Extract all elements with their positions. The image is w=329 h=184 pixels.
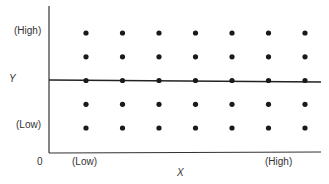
data-point — [302, 30, 307, 35]
data-point — [229, 54, 234, 59]
data-point — [266, 78, 271, 83]
y-low-label: (Low) — [16, 119, 41, 130]
data-point — [229, 125, 234, 130]
x-low-label: (Low) — [72, 156, 97, 167]
scatter-chart: (High) Y (Low) 0 (Low) X (High) — [0, 0, 329, 184]
data-point — [302, 102, 307, 107]
data-point — [302, 78, 307, 83]
regression-line — [49, 80, 321, 82]
y-high-label: (High) — [14, 25, 41, 36]
data-point — [266, 125, 271, 130]
data-point — [193, 78, 198, 83]
data-point — [120, 30, 125, 35]
data-point — [193, 125, 198, 130]
data-point — [302, 125, 307, 130]
data-point — [83, 78, 88, 83]
data-point — [120, 54, 125, 59]
data-point — [83, 54, 88, 59]
data-point — [229, 30, 234, 35]
data-point — [193, 102, 198, 107]
data-point — [120, 125, 125, 130]
data-point — [83, 30, 88, 35]
data-point — [193, 54, 198, 59]
y-axis-title: Y — [9, 73, 16, 84]
data-point — [266, 30, 271, 35]
data-point — [156, 30, 161, 35]
data-point — [156, 125, 161, 130]
data-point — [83, 102, 88, 107]
data-point — [229, 78, 234, 83]
data-point — [266, 102, 271, 107]
x-axis-title: X — [177, 167, 184, 178]
x-axis — [49, 152, 321, 153]
data-point — [83, 125, 88, 130]
data-point — [120, 102, 125, 107]
origin-label: 0 — [37, 156, 43, 167]
data-point — [266, 54, 271, 59]
x-high-label: (High) — [265, 156, 292, 167]
data-point — [193, 30, 198, 35]
data-point — [156, 102, 161, 107]
data-point — [120, 78, 125, 83]
data-point — [156, 54, 161, 59]
data-point — [302, 54, 307, 59]
data-point — [229, 102, 234, 107]
data-point — [156, 78, 161, 83]
